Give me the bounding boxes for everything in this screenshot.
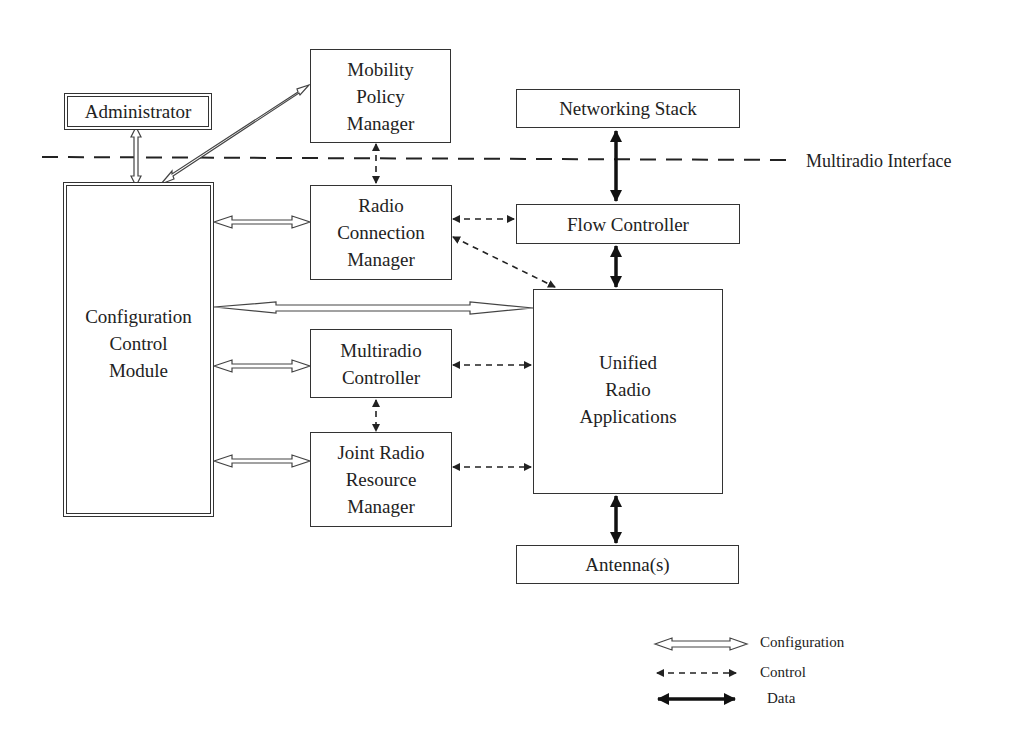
antennas-label: Antenna(s) [585, 551, 669, 578]
legend-glyphs [655, 638, 747, 699]
configuration-control-module-label: Configuration Control Module [85, 303, 192, 384]
flow-controller-box: Flow Controller [516, 204, 740, 244]
multiradio-interface-label: Multiradio Interface [806, 151, 951, 172]
legend-configuration-label: Configuration [760, 634, 844, 651]
config-arrow-rcm [214, 216, 310, 228]
configuration-control-module-box: Configuration Control Module [63, 182, 214, 517]
joint-radio-resource-manager-box: Joint Radio Resource Manager [310, 432, 452, 527]
unified-radio-applications-box: Unified Radio Applications [533, 289, 723, 494]
joint-radio-resource-manager-label: Joint Radio Resource Manager [337, 439, 424, 520]
networking-stack-box: Networking Stack [516, 89, 740, 128]
multiradio-controller-label: Multiradio Controller [340, 337, 421, 391]
administrator-box: Administrator [64, 93, 212, 130]
radio-connection-manager-label: Radio Connection Manager [337, 192, 425, 273]
networking-stack-label: Networking Stack [559, 95, 697, 122]
radio-connection-manager-box: Radio Connection Manager [310, 185, 452, 280]
legend-configuration-icon [655, 638, 747, 650]
control-arrow-rcm-ura [453, 237, 555, 287]
unified-radio-applications-label: Unified Radio Applications [579, 349, 676, 430]
antennas-box: Antenna(s) [516, 545, 739, 584]
mobility-policy-manager-label: Mobility Policy Manager [347, 56, 415, 137]
config-arrow-mrc [214, 360, 310, 372]
legend-control-label: Control [760, 664, 806, 681]
flow-controller-label: Flow Controller [567, 211, 689, 238]
config-arrow-jrrm [214, 455, 310, 467]
legend-data-label: Data [767, 690, 795, 707]
mobility-policy-manager-box: Mobility Policy Manager [310, 49, 451, 143]
config-arrow-ura [214, 302, 533, 314]
administrator-label: Administrator [85, 98, 192, 125]
multiradio-interface-line [42, 157, 795, 160]
multiradio-controller-box: Multiradio Controller [310, 329, 452, 398]
